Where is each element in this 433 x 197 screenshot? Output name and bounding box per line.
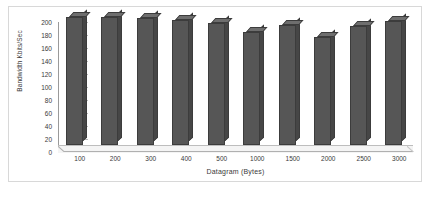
y-tick-label: 20 — [30, 136, 52, 143]
bar-top-face — [317, 32, 339, 37]
bar-top-face — [69, 12, 91, 17]
x-axis-tick-labels: 10020030040050010001500200025003000 — [58, 155, 418, 165]
bar-face — [208, 23, 225, 145]
y-tick-label: 180 — [30, 32, 52, 39]
bar-500[interactable] — [208, 23, 228, 145]
y-tick-label: 100 — [30, 84, 52, 91]
y-tick-label: 140 — [30, 58, 52, 65]
x-tick-label: 300 — [134, 155, 168, 163]
x-tick-label: 400 — [169, 155, 203, 163]
bar-top-face — [211, 18, 233, 23]
bar-3000[interactable] — [385, 21, 405, 145]
x-tick-label: 1000 — [240, 155, 274, 163]
bar-400[interactable] — [172, 20, 192, 145]
bar-2500[interactable] — [350, 26, 370, 145]
y-tick-label: 0 — [30, 149, 52, 156]
y-tick-label: 80 — [30, 97, 52, 104]
bar-top-face — [388, 16, 410, 21]
bar-2000[interactable] — [314, 37, 334, 145]
y-tick-label: 40 — [30, 123, 52, 130]
bar-100[interactable] — [66, 17, 86, 145]
x-axis-title: Datagram (Bytes) — [58, 168, 413, 175]
bar-face — [385, 21, 402, 145]
bar-top-face — [246, 27, 268, 32]
x-tick-label: 200 — [98, 155, 132, 163]
bar-face — [350, 26, 367, 145]
bar-top-face — [175, 15, 197, 20]
y-tick-label: 60 — [30, 110, 52, 117]
bar-top-face — [353, 21, 375, 26]
bar-face — [279, 25, 296, 145]
bar-top-face — [104, 12, 126, 17]
y-axis-title: Bandwidth Kbits/Sec — [13, 11, 27, 111]
chart-figure: Bandwidth Kbits/Sec 200 180 160 140 120 … — [0, 0, 433, 197]
x-tick-label: 100 — [63, 155, 97, 163]
x-tick-label: 3000 — [382, 155, 416, 163]
y-tick-label: 120 — [30, 71, 52, 78]
x-tick-label: 1500 — [276, 155, 310, 163]
bar-top-face — [282, 20, 304, 25]
bar-200[interactable] — [101, 17, 121, 145]
x-tick-label: 2000 — [311, 155, 345, 163]
bar-face — [314, 37, 331, 145]
y-tick-label: 200 — [30, 19, 52, 26]
y-axis-tick-labels: 200 180 160 140 120 100 80 60 40 20 0 — [30, 17, 54, 153]
x-tick-label: 2500 — [347, 155, 381, 163]
bar-face — [66, 17, 83, 145]
bar-face — [101, 17, 118, 145]
plot-area: Bandwidth Kbits/Sec 200 180 160 140 120 … — [0, 0, 433, 197]
bar-face — [172, 20, 189, 145]
x-tick-label: 500 — [205, 155, 239, 163]
bar-1000[interactable] — [243, 32, 263, 145]
bar-300[interactable] — [137, 18, 157, 145]
bar-face — [137, 18, 154, 145]
bar-top-face — [140, 13, 162, 18]
y-tick-label: 160 — [30, 45, 52, 52]
bar-face — [243, 32, 260, 145]
bar-1500[interactable] — [279, 25, 299, 145]
bar-series — [58, 17, 413, 152]
